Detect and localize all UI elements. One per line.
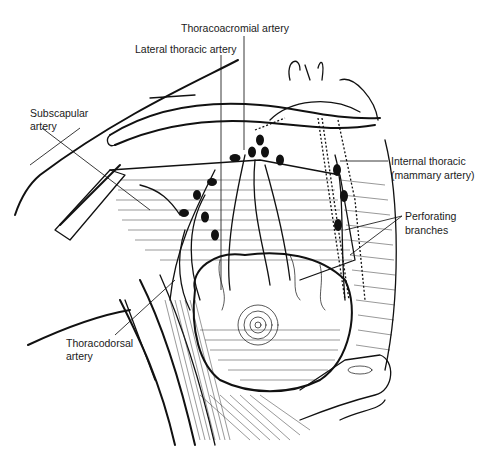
label-thoracodorsal-artery-line2: artery <box>66 350 93 362</box>
label-internal-thoracic-line2: (mammary artery) <box>391 169 474 181</box>
label-perforating-branches-line2: branches <box>405 224 448 236</box>
label-thoracodorsal-artery-line1: Thoracodorsal <box>66 337 133 349</box>
label-subscapular-artery-line2: artery <box>30 120 57 132</box>
label-lateral-thoracic-artery: Lateral thoracic artery <box>135 43 237 55</box>
ribs-and-serratus <box>200 355 391 440</box>
anatomy-diagram: Thoracoacromial artery Lateral thoracic … <box>0 0 501 467</box>
label-internal-thoracic-line1: Internal thoracic <box>391 155 466 167</box>
label-thoracoacromial-artery: Thoracoacromial artery <box>181 22 289 34</box>
label-perforating-branches-line1: Perforating <box>405 210 456 222</box>
leader-lines <box>30 36 402 335</box>
label-subscapular-artery-line1: Subscapular <box>30 107 88 119</box>
subclavian-dashed-vessels <box>255 118 365 300</box>
arteries <box>140 155 345 310</box>
